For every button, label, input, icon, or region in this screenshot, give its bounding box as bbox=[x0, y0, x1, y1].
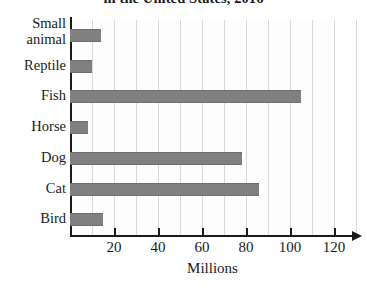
bar-bird bbox=[70, 213, 103, 226]
category-label-reptile: Reptile bbox=[0, 58, 66, 74]
bar-small-animal bbox=[70, 29, 101, 42]
x-axis-line bbox=[70, 235, 355, 237]
bar-reptile bbox=[70, 60, 92, 73]
x-tick-120 bbox=[334, 228, 336, 236]
category-label-dog: Dog bbox=[0, 150, 66, 166]
gridline-130 bbox=[356, 20, 357, 235]
category-label-cat: Cat bbox=[0, 181, 66, 197]
category-label-horse: Horse bbox=[0, 119, 66, 135]
category-label-line: Horse bbox=[0, 119, 66, 135]
gridline-80 bbox=[246, 20, 247, 235]
chart-title: in the United States, 2016 bbox=[0, 0, 367, 6]
x-tick-label-20: 20 bbox=[92, 239, 136, 256]
category-label-line: animal bbox=[0, 32, 66, 48]
gridline-20 bbox=[114, 20, 115, 235]
bar-cat bbox=[70, 183, 259, 196]
category-label-small-animal: Smallanimal bbox=[0, 16, 66, 47]
category-label-line: Dog bbox=[0, 150, 66, 166]
gridline-100 bbox=[290, 20, 291, 235]
x-tick-label-60: 60 bbox=[180, 239, 224, 256]
gridline-40 bbox=[158, 20, 159, 235]
bar-horse bbox=[70, 121, 88, 134]
category-label-line: Reptile bbox=[0, 58, 66, 74]
gridline-50 bbox=[180, 20, 181, 235]
x-tick-label-40: 40 bbox=[136, 239, 180, 256]
category-label-line: Cat bbox=[0, 181, 66, 197]
x-tick-label-120: 120 bbox=[312, 239, 356, 256]
category-label-line: Fish bbox=[0, 88, 66, 104]
bar-dog bbox=[70, 152, 242, 165]
x-tick-20 bbox=[114, 228, 116, 236]
category-label-bird: Bird bbox=[0, 211, 66, 227]
gridline-110 bbox=[312, 20, 313, 235]
gridline-90 bbox=[268, 20, 269, 235]
gridline-10 bbox=[92, 20, 93, 235]
gridline-120 bbox=[334, 20, 335, 235]
category-label-line: Small bbox=[0, 16, 66, 32]
x-tick-100 bbox=[290, 228, 292, 236]
x-tick-40 bbox=[158, 228, 160, 236]
bar-fish bbox=[70, 90, 301, 103]
x-axis-title: Millions bbox=[70, 260, 355, 277]
category-label-fish: Fish bbox=[0, 88, 66, 104]
gridline-30 bbox=[136, 20, 137, 235]
x-tick-label-100: 100 bbox=[268, 239, 312, 256]
gridline-60 bbox=[202, 20, 203, 235]
gridline-70 bbox=[224, 20, 225, 235]
x-tick-60 bbox=[202, 228, 204, 236]
x-tick-80 bbox=[246, 228, 248, 236]
category-label-line: Bird bbox=[0, 211, 66, 227]
plot-area bbox=[70, 20, 337, 235]
x-tick-label-80: 80 bbox=[224, 239, 268, 256]
